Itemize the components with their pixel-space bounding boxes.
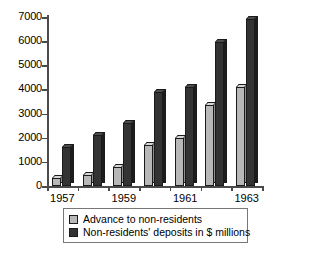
- bar-face: [154, 92, 163, 186]
- y-axis-tick: [42, 138, 47, 140]
- x-axis-tick: [108, 186, 110, 191]
- y-axis-tick-label: 1000: [2, 156, 42, 167]
- bar-group: [78, 17, 109, 186]
- y-axis-tick-label: 0: [2, 180, 42, 191]
- chart-legend: Advance to non-residents Non-residents' …: [63, 208, 248, 243]
- bar-group: [139, 17, 170, 186]
- x-axis-tick: [262, 186, 264, 191]
- bar-face: [83, 175, 92, 186]
- bar-side: [132, 120, 135, 183]
- bar: [62, 147, 71, 186]
- bar: [154, 92, 163, 186]
- bar-side: [194, 84, 197, 183]
- x-axis-tick: [201, 186, 203, 191]
- legend-item: Non-residents' deposits in $ millions: [69, 226, 242, 238]
- plot-area: [47, 17, 262, 186]
- bar-face: [52, 178, 61, 186]
- bar: [236, 87, 245, 186]
- bar-face: [113, 167, 122, 186]
- bar: [83, 175, 92, 186]
- bar-side: [102, 132, 105, 183]
- bar: [215, 42, 224, 186]
- y-axis-tick: [42, 186, 47, 188]
- bar: [205, 105, 214, 186]
- bar-face: [185, 87, 194, 186]
- bar-side: [224, 39, 227, 183]
- bar-face: [62, 147, 71, 186]
- bar-side: [163, 89, 166, 183]
- bar: [246, 19, 255, 186]
- bar-chart: 01000200030004000500060007000 1957195919…: [0, 0, 309, 255]
- x-axis-tick: [78, 186, 80, 191]
- y-axis-labels: 01000200030004000500060007000: [0, 0, 42, 255]
- bar-face: [215, 42, 224, 186]
- x-axis-tick-label: 1961: [165, 192, 205, 204]
- bar-group: [47, 17, 78, 186]
- y-axis-tick-label: 6000: [2, 35, 42, 46]
- bar: [175, 138, 184, 186]
- bar-side: [71, 144, 74, 183]
- dark-swatch-icon: [69, 228, 78, 237]
- y-axis-tick: [42, 41, 47, 43]
- x-axis-tick-label: 1957: [42, 192, 82, 204]
- bar: [144, 145, 153, 186]
- bar-group: [201, 17, 232, 186]
- bar-face: [246, 19, 255, 186]
- y-axis-tick-label: 7000: [2, 11, 42, 22]
- legend-item: Advance to non-residents: [69, 213, 242, 225]
- y-axis-tick: [42, 17, 47, 19]
- legend-item-label: Non-residents' deposits in $ millions: [83, 226, 250, 238]
- bar: [93, 135, 102, 186]
- bar-face: [123, 123, 132, 186]
- bar: [113, 167, 122, 186]
- x-axis-tick: [170, 186, 172, 191]
- y-axis-tick: [42, 89, 47, 91]
- bar: [123, 123, 132, 186]
- legend-item-label: Advance to non-residents: [83, 213, 202, 225]
- x-axis-tick: [139, 186, 141, 191]
- y-axis-tick: [42, 65, 47, 67]
- x-axis-tick: [231, 186, 233, 191]
- x-axis-tick-label: 1963: [227, 192, 267, 204]
- bar: [52, 178, 61, 186]
- bar-side: [255, 16, 258, 183]
- bar-face: [236, 87, 245, 186]
- x-axis-tick-label: 1959: [104, 192, 144, 204]
- y-axis-tick-label: 5000: [2, 59, 42, 70]
- bar-group: [231, 17, 262, 186]
- y-axis-tick: [42, 114, 47, 116]
- bar-group: [108, 17, 139, 186]
- bar-face: [144, 145, 153, 186]
- bar-face: [175, 138, 184, 186]
- y-axis-tick: [42, 162, 47, 164]
- x-axis-tick: [47, 186, 49, 191]
- y-axis-tick-label: 3000: [2, 108, 42, 119]
- light-gray-swatch-icon: [69, 215, 78, 224]
- bar: [185, 87, 194, 186]
- y-axis-tick-label: 4000: [2, 83, 42, 94]
- bar-face: [93, 135, 102, 186]
- bar-group: [170, 17, 201, 186]
- y-axis-tick-label: 2000: [2, 132, 42, 143]
- bar-face: [205, 105, 214, 186]
